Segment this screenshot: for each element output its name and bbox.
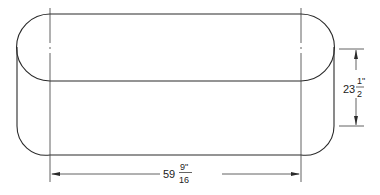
length-whole: 59 — [163, 168, 175, 180]
arrow-left-icon — [51, 172, 60, 176]
arrow-down-icon — [354, 116, 358, 125]
body-left-side — [17, 47, 50, 155]
top-stadium-outline — [17, 14, 335, 81]
length-numerator: 9" — [180, 162, 188, 172]
height-dimension-label: 23 1" 2 — [343, 76, 365, 99]
length-denominator: 16 — [179, 175, 189, 185]
height-whole: 23 — [343, 83, 355, 95]
height-numerator: 1" — [357, 76, 365, 86]
arrow-up-icon — [354, 50, 358, 59]
technical-drawing: 59 9" 16 23 1" 2 — [0, 0, 380, 195]
length-dimension-line — [51, 172, 300, 176]
length-dimension-label: 59 9" 16 — [163, 162, 192, 185]
arrow-right-icon — [291, 172, 300, 176]
height-denominator: 2 — [357, 89, 362, 99]
body-right-side — [301, 47, 334, 155]
